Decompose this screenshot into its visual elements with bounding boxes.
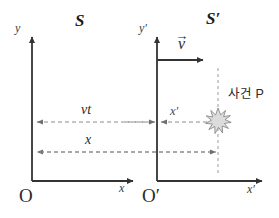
velocity-label: → v	[178, 36, 185, 52]
origin-label-o: O	[19, 186, 33, 205]
frame-label-s-prime: S′	[206, 10, 220, 27]
frame-label-s: S	[75, 12, 84, 29]
origin-label-o-prime: O′	[142, 186, 160, 205]
vector-accent-icon: →	[175, 29, 188, 42]
axis-label-x-prime: x′	[247, 183, 255, 195]
measure-label-x-prime: x′	[170, 105, 178, 118]
event-label: 사건 P	[228, 88, 264, 101]
diagram-canvas: S S′ y x O y′ x′ O′ → v vt x′ x 사건 P	[0, 0, 279, 218]
measure-label-vt: vt	[81, 103, 91, 117]
measure-label-x: x	[85, 133, 91, 147]
axis-label-x: x	[119, 182, 124, 194]
axis-label-y-prime: y′	[139, 22, 147, 34]
axis-label-y: y	[15, 22, 20, 34]
